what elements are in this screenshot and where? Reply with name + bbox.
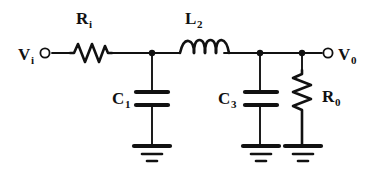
label-load-resistor-base: R [322, 87, 334, 106]
label-load-resistor-sub: 0 [334, 96, 340, 108]
label-input-terminal: Vi [18, 46, 34, 66]
label-output-terminal-base: V [338, 45, 350, 64]
label-series-resistor-sub: i [88, 18, 92, 30]
series-inductor-symbol [180, 40, 229, 53]
label-series-resistor-base: R [76, 9, 88, 28]
label-shunt-capacitor-3-base: C [218, 89, 230, 108]
branch-c1 [134, 53, 170, 161]
label-output-terminal: V0 [338, 46, 356, 66]
branch-c3 [243, 53, 279, 161]
circuit-diagram: Ri L2 Vi V0 C1 C3 R0 [0, 0, 379, 176]
label-series-inductor-base: L [185, 9, 197, 28]
load-resistor-symbol [293, 70, 311, 145]
label-shunt-capacitor-3-sub: 3 [230, 98, 236, 110]
label-series-resistor: Ri [76, 10, 92, 30]
label-input-terminal-sub: i [30, 54, 34, 66]
label-load-resistor: R0 [322, 88, 340, 108]
series-resistor-symbol [70, 44, 112, 62]
label-shunt-capacitor-3: C3 [218, 90, 236, 110]
label-shunt-capacitor-1: C1 [112, 90, 130, 110]
label-shunt-capacitor-1-sub: 1 [124, 98, 130, 110]
label-shunt-capacitor-1-base: C [112, 89, 124, 108]
label-series-inductor: L2 [185, 10, 203, 30]
branch-r0 [285, 53, 321, 161]
label-output-terminal-sub: 0 [350, 54, 356, 66]
label-series-inductor-sub: 2 [197, 18, 203, 30]
label-input-terminal-base: V [18, 45, 30, 64]
output-terminal-circle [323, 48, 332, 57]
input-terminal-circle [40, 48, 49, 57]
